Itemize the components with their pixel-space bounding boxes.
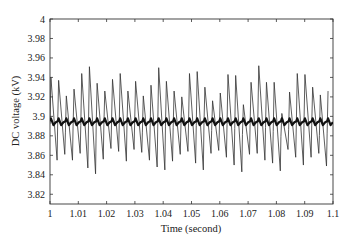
y-tick-label: 3.96: [28, 52, 46, 63]
x-tick-label: 1: [48, 208, 53, 219]
x-tick-label: 1.03: [126, 208, 144, 219]
y-tick-label: 3.86: [28, 150, 46, 161]
x-tick-label: 1.02: [98, 208, 116, 219]
dc-voltage-chart: 11.011.021.031.041.051.061.071.081.091.1…: [0, 0, 348, 247]
plot-frame: [50, 19, 333, 204]
x-tick-label: 1.06: [211, 208, 229, 219]
y-tick-label: 3.82: [28, 189, 46, 200]
series-layer: [50, 66, 333, 174]
x-tick-label: 1.09: [296, 208, 314, 219]
y-tick-label: 3.84: [28, 169, 46, 180]
y-tick-label: 4: [40, 14, 45, 25]
x-axis-label: Time (second): [161, 223, 222, 235]
x-tick-label: 1.01: [70, 208, 88, 219]
y-tick-label: 3.98: [28, 33, 46, 44]
x-tick-label: 1.04: [154, 208, 172, 219]
y-tick-label: 3.92: [28, 91, 46, 102]
x-tick-label: 1.07: [239, 208, 257, 219]
x-tick-label: 1.1: [327, 208, 340, 219]
plot-area: 11.011.021.031.041.051.061.071.081.091.1…: [28, 14, 340, 220]
y-tick-label: 3.9: [33, 111, 46, 122]
y-tick-label: 3.88: [28, 130, 46, 141]
x-axis-ticks: 11.011.021.031.041.051.061.071.081.091.1: [48, 19, 340, 219]
x-tick-label: 1.08: [268, 208, 286, 219]
y-tick-label: 3.94: [28, 72, 46, 83]
x-tick-label: 1.05: [183, 208, 201, 219]
y-axis-label: DC voltage (kV): [10, 75, 22, 146]
